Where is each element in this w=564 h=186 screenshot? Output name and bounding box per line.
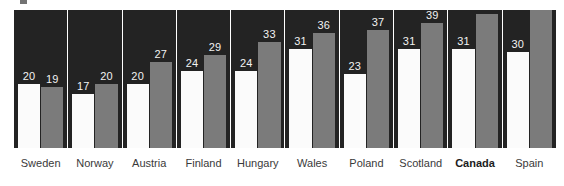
bar — [258, 42, 280, 148]
bar — [344, 74, 366, 148]
bar — [367, 30, 389, 148]
bar-column: 17 — [72, 10, 94, 148]
bar-value-label: 20 — [127, 71, 149, 82]
bar-value-label: 39 — [421, 10, 443, 21]
chart-panel: 2429 — [177, 10, 230, 148]
bar-value-label: 31 — [289, 36, 311, 47]
chart-panel: 3043 — [503, 10, 556, 148]
bar-value-label: 31 — [398, 36, 420, 47]
category-label: Scotland — [394, 152, 447, 174]
bar-group: 3142 — [448, 10, 501, 148]
bar — [18, 84, 40, 148]
bar-value-label: 17 — [72, 81, 94, 92]
chart-panel: 2433 — [231, 10, 284, 148]
bar-group: 1720 — [68, 10, 121, 148]
bar — [127, 84, 149, 148]
bar-group: 3043 — [503, 10, 556, 148]
category-label: Austria — [123, 152, 176, 174]
bar — [41, 87, 63, 148]
category-label: Finland — [177, 152, 230, 174]
category-label: Hungary — [231, 152, 284, 174]
category-label: Sweden — [14, 152, 67, 174]
bar-column: 23 — [344, 10, 366, 148]
bar — [421, 23, 443, 148]
bar — [95, 84, 117, 148]
bar — [289, 49, 311, 148]
bar-column: 29 — [204, 10, 226, 148]
chart-panel: 3142 — [448, 10, 501, 148]
chart-panel: 1720 — [68, 10, 121, 148]
bar-group: 3136 — [285, 10, 338, 148]
bar-value-label: 37 — [367, 17, 389, 28]
crop-artifact — [20, 0, 27, 4]
chart-panel: 3139 — [394, 10, 447, 148]
bar-value-label: 23 — [344, 61, 366, 72]
bar — [313, 33, 335, 148]
bar-group: 3139 — [394, 10, 447, 148]
bar-column: 42 — [476, 10, 498, 148]
small-multiples-bar-chart: 2019172020272429243331362337313931423043… — [0, 0, 564, 186]
bar-column: 19 — [41, 10, 63, 148]
chart-panels: 2019172020272429243331362337313931423043 — [14, 10, 556, 148]
bar-column: 39 — [421, 10, 443, 148]
bar — [476, 14, 498, 148]
bar — [398, 49, 420, 148]
bar-column: 31 — [398, 10, 420, 148]
bar-group: 2433 — [231, 10, 284, 148]
bar — [72, 94, 94, 148]
bar-column: 27 — [150, 10, 172, 148]
bar — [181, 71, 203, 148]
bar-value-label: 36 — [313, 20, 335, 31]
bar — [204, 55, 226, 148]
bar-column: 20 — [18, 10, 40, 148]
bar — [530, 10, 552, 148]
category-label: Canada — [448, 152, 501, 174]
bar-value-label: 24 — [235, 58, 257, 69]
bar-column: 24 — [181, 10, 203, 148]
category-label: Wales — [285, 152, 338, 174]
bar-column: 24 — [235, 10, 257, 148]
chart-panel: 2027 — [123, 10, 176, 148]
bar-column: 31 — [289, 10, 311, 148]
bar-group: 2027 — [123, 10, 176, 148]
bar-value-label: 42 — [476, 10, 498, 12]
chart-panel: 2337 — [340, 10, 393, 148]
chart-panel: 3136 — [285, 10, 338, 148]
bar-value-label: 27 — [150, 49, 172, 60]
bar-column: 36 — [313, 10, 335, 148]
bar-value-label: 29 — [204, 42, 226, 53]
bar — [150, 62, 172, 148]
bar-value-label: 20 — [95, 71, 117, 82]
bar-group: 2337 — [340, 10, 393, 148]
bar — [235, 71, 257, 148]
category-label: Spain — [503, 152, 556, 174]
bar-group: 2429 — [177, 10, 230, 148]
bar-column: 30 — [507, 10, 529, 148]
bar-column: 31 — [452, 10, 474, 148]
bar-column: 20 — [127, 10, 149, 148]
chart-panel: 2019 — [14, 10, 67, 148]
bar-column: 37 — [367, 10, 389, 148]
bar-column: 20 — [95, 10, 117, 148]
bar-value-label: 33 — [258, 29, 280, 40]
bar — [507, 52, 529, 148]
category-label: Poland — [340, 152, 393, 174]
bar-value-label: 19 — [41, 74, 63, 85]
bar-column: 43 — [530, 10, 552, 148]
bar-group: 2019 — [14, 10, 67, 148]
bar — [452, 49, 474, 148]
bar-value-label: 30 — [507, 39, 529, 50]
bar-value-label: 20 — [18, 71, 40, 82]
bar-column: 33 — [258, 10, 280, 148]
bar-value-label: 24 — [181, 58, 203, 69]
category-labels-row: SwedenNorwayAustriaFinlandHungaryWalesPo… — [14, 152, 556, 174]
bar-value-label: 31 — [452, 36, 474, 47]
category-label: Norway — [68, 152, 121, 174]
